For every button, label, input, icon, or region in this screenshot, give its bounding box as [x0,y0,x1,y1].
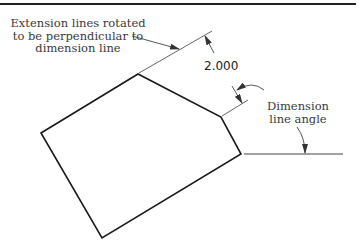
dimension-line-lower [232,86,242,103]
diagram-canvas: 2.000 Extension lines rotated to be perp… [0,0,361,252]
extension-line-upper [139,31,212,73]
dimension-line-upper [205,36,214,53]
pentagon-outline [41,74,241,238]
extension-line-lower [222,100,248,116]
dimension-value: 2.000 [203,59,239,73]
dimension-line-angle-annotation: Dimension line angle [258,100,338,125]
extension-lines-annotation: Extension lines rotated to be perpendicu… [8,17,148,55]
leader-dimension-line [237,85,264,90]
leader-line-angle [297,127,305,153]
